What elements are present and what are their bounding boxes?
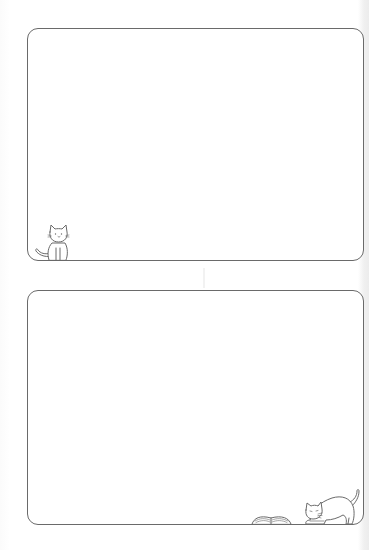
stretching-cat-icon	[300, 488, 362, 526]
sitting-cat-icon	[32, 218, 76, 262]
open-book-icon	[250, 510, 293, 525]
note-frame-top[interactable]	[27, 28, 364, 261]
fold-mark	[203, 268, 205, 288]
note-page	[0, 0, 369, 550]
